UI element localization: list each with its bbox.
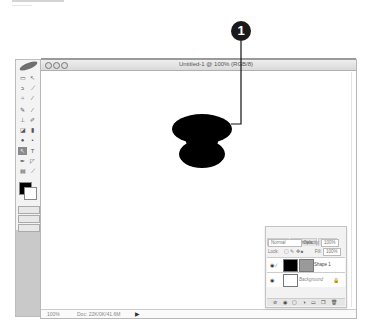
layer-row-shape-1[interactable]: ◉ ∕ Shape 1 [267,257,345,272]
black-shape-layer[interactable] [172,114,232,168]
callout-number: 1 [231,23,251,38]
layer-row-background[interactable]: ◉ Background 🔒 [267,272,345,287]
panel-tabs: LayersChannelsPaths [267,230,345,237]
layers-panel: LayersChannelsPaths Normal Opacity: 100%… [265,226,347,308]
visibility-eye-icon[interactable]: ◉ [270,277,274,283]
callout-leader-line [231,41,241,124]
vector-mask-thumbnail[interactable] [299,259,314,272]
fill-label: Fill: [315,249,322,254]
layer-thumbnail [283,259,298,272]
lock-icons[interactable]: ▢ ✎ ✥ ■ [284,249,303,254]
layer-thumbnail [283,274,298,287]
lock-fill-row: Lock: ▢ ✎ ✥ ■ Fill: 100% [268,248,344,256]
layers-footer-buttons[interactable]: ⊘ ◉ ▢ ◑ ▭ ❐ 🗑 [267,298,345,306]
lock-label: Lock: [268,249,279,254]
blend-mode-select[interactable]: Normal [268,239,302,247]
brush-link-icon: ∕ [276,262,277,268]
blend-opacity-row: Normal Opacity: 100% [268,239,344,247]
layer-name: Background [299,277,323,282]
opacity-label: Opacity: [303,240,320,245]
lock-icon: 🔒 [333,277,339,283]
visibility-eye-icon[interactable]: ◉ [270,262,274,268]
layer-name: Shape 1 [314,262,331,267]
opacity-field[interactable]: 100% [321,239,339,247]
fill-field[interactable]: 100% [323,248,341,256]
